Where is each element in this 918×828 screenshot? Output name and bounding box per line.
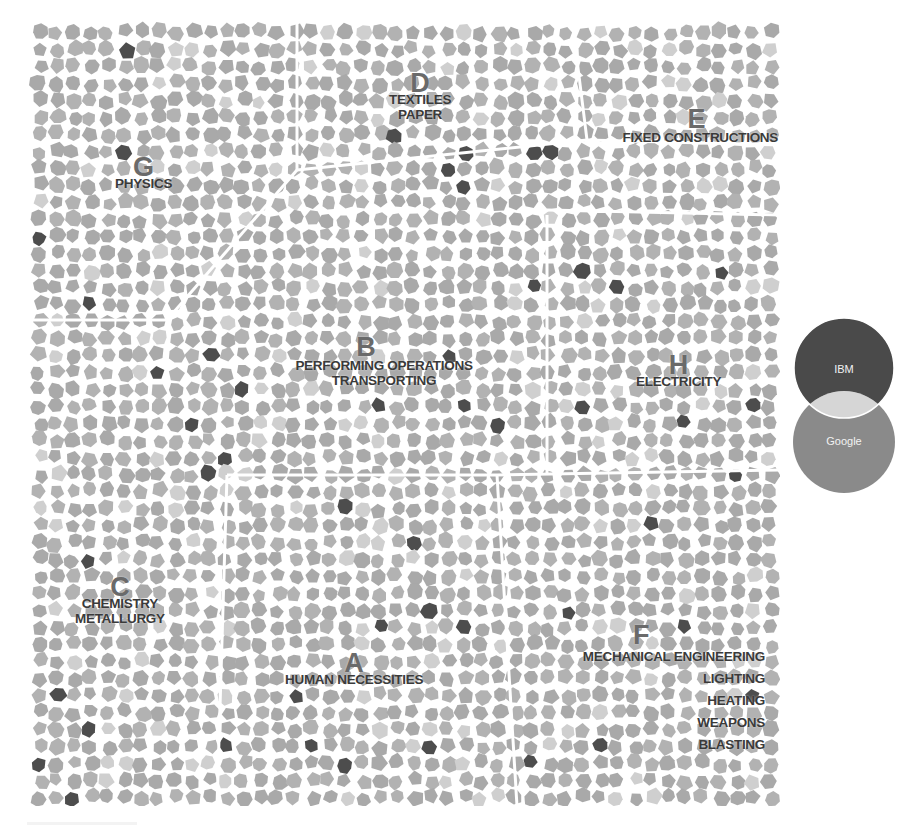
region-e-label: E FIXED CONSTRUCTIONS xyxy=(595,104,778,145)
region-g-line-1: PHYSICS xyxy=(115,176,172,191)
region-f-line-2: LIGHTING xyxy=(547,668,765,690)
region-f-line-4: WEAPONS xyxy=(547,712,765,734)
patent-classification-voronoi-map: G PHYSICS D TEXTILES PAPER E FIXED CONST… xyxy=(27,20,780,806)
region-d-line-1: TEXTILES xyxy=(389,92,451,107)
region-d-label: D TEXTILES PAPER xyxy=(389,68,451,122)
region-f-line-3: HEATING xyxy=(547,690,765,712)
faint-caption xyxy=(27,822,137,825)
region-f-line-1: MECHANICAL ENGINEERING xyxy=(547,646,765,668)
region-h-label: H ELECTRICITY xyxy=(636,350,721,389)
region-b-line-1: PERFORMING OPERATIONS xyxy=(279,358,489,373)
region-f-label: F MECHANICAL ENGINEERING LIGHTING HEATIN… xyxy=(547,620,765,756)
ibm-label: IBM xyxy=(787,363,901,375)
google-label: Google xyxy=(787,435,901,447)
region-b-label: B PERFORMING OPERATIONS TRANSPORTING xyxy=(279,332,489,388)
region-c-line-2: METALLURGY xyxy=(75,611,165,626)
region-a-line-1: HUMAN NECESSITIES xyxy=(285,672,423,687)
region-a-label: A HUMAN NECESSITIES xyxy=(285,648,423,687)
region-g-label: G PHYSICS xyxy=(115,152,172,191)
region-f-line-5: BLASTING xyxy=(547,734,765,756)
region-c-label: C CHEMISTRY METALLURGY xyxy=(75,572,165,626)
region-h-line-1: ELECTRICITY xyxy=(636,374,721,389)
venn-circles xyxy=(787,318,901,494)
region-c-line-1: CHEMISTRY xyxy=(75,596,165,611)
ibm-google-venn-legend: IBM Google xyxy=(787,318,901,494)
region-d-line-2: PAPER xyxy=(389,107,451,122)
region-b-line-2: TRANSPORTING xyxy=(279,373,489,388)
region-e-line-1: FIXED CONSTRUCTIONS xyxy=(595,130,778,145)
